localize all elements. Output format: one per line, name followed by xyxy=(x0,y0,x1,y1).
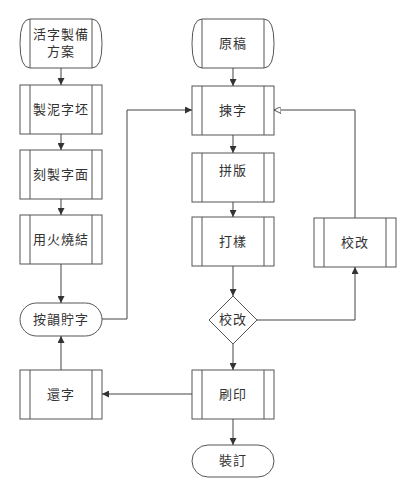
label-revise: 校改 xyxy=(324,234,386,251)
label-clay: 製泥字坯 xyxy=(30,101,92,118)
label-compose: 拼版 xyxy=(202,162,264,179)
label-check: 校改 xyxy=(209,311,257,328)
label-pick: 揀字 xyxy=(202,102,264,119)
label-return: 還字 xyxy=(30,386,92,403)
label-bind: 裝訂 xyxy=(192,452,274,469)
label-plan-line1: 活字製備 xyxy=(30,26,92,43)
edge-store-pick xyxy=(102,110,192,319)
label-print: 刷印 xyxy=(202,386,264,403)
label-plan-line2: 方案 xyxy=(30,43,92,60)
label-proof: 打樣 xyxy=(202,233,264,250)
edge-check-revise xyxy=(257,267,355,320)
label-carve: 刻製字面 xyxy=(30,166,92,183)
label-manuscript: 原稿 xyxy=(202,35,264,52)
label-store: 按韻貯字 xyxy=(20,311,102,328)
label-plan: 活字製備 方案 xyxy=(30,26,92,60)
edge-revise-pick xyxy=(274,110,355,218)
label-fire: 用火燒結 xyxy=(30,231,92,248)
